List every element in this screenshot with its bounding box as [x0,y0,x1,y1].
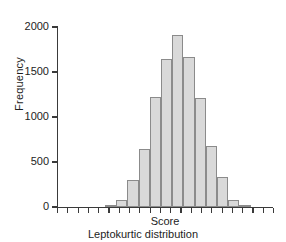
histogram-bar [206,146,217,207]
y-tick-label-2000: 2000 [5,21,49,32]
x-tick-21 [273,208,274,213]
x-tick-0 [57,208,58,213]
x-axis-line [57,207,273,208]
y-axis-label: Frequency [13,29,25,139]
histogram-bar [195,98,206,207]
histogram-bar [139,149,150,207]
x-tick-2 [78,208,79,213]
histogram-bar [161,59,172,208]
x-axis-label: Score [57,215,273,227]
y-tick-label-1000: 1000 [5,111,49,122]
x-tick-4 [98,208,99,213]
x-tick-6 [119,208,120,213]
histogram-figure: Frequency 0500100015002000 Score Leptoku… [0,0,286,242]
x-tick-3 [88,208,89,213]
x-tick-9 [150,208,151,213]
x-tick-7 [129,208,130,213]
x-tick-16 [222,208,223,213]
histogram-bar [183,57,194,207]
x-tick-17 [232,208,233,213]
x-tick-5 [108,208,109,213]
x-tick-19 [252,208,253,213]
y-tick-label-500: 500 [5,156,49,167]
x-tick-11 [170,208,171,213]
x-tick-18 [242,208,243,213]
x-tick-1 [67,208,68,213]
x-tick-13 [191,208,192,213]
x-tick-15 [211,208,212,213]
histogram-bar [116,200,127,207]
histogram-bar [217,177,228,207]
y-tick-label-0: 0 [5,201,49,212]
x-tick-8 [139,208,140,213]
plot-area [58,27,273,207]
histogram-bar [150,97,161,207]
figure-caption: Leptokurtic distribution [0,228,286,240]
histogram-bar [127,180,138,207]
histogram-bar [228,200,239,207]
x-tick-20 [263,208,264,213]
histogram-bar [172,35,183,207]
x-tick-10 [160,208,161,213]
y-tick-label-1500: 1500 [5,66,49,77]
x-tick-12 [180,208,181,213]
x-tick-14 [201,208,202,213]
